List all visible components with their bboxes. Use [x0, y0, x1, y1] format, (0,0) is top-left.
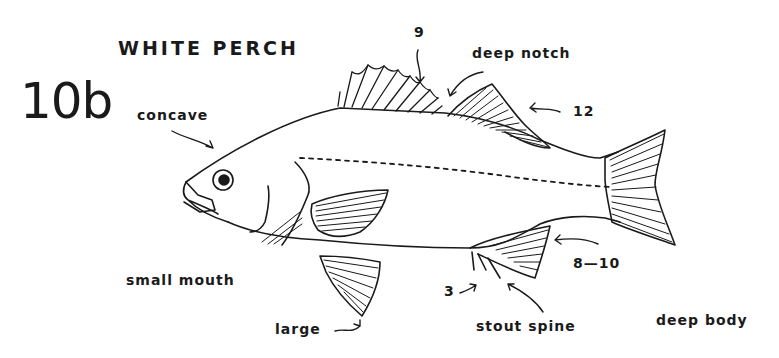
preopercle	[250, 186, 269, 232]
pectoral-fin	[311, 190, 388, 236]
lateral-line	[300, 158, 612, 187]
white-perch-illustration	[0, 0, 779, 358]
arrow-deep-notch	[448, 72, 483, 96]
anal-fin	[470, 226, 550, 278]
opercle	[282, 162, 309, 245]
fish-head	[184, 162, 309, 245]
arrow-dorsal-spines	[416, 50, 424, 82]
caudal-fin	[605, 130, 675, 245]
arrow-anal-rays	[555, 235, 598, 244]
fish-body	[184, 108, 675, 248]
pelvic-fin	[320, 256, 380, 316]
arrow-anal-spines	[460, 284, 476, 293]
mouth	[184, 182, 215, 212]
arrow-concave	[172, 131, 213, 148]
arrow-stout-spine	[508, 284, 543, 312]
spiny-dorsal-fin	[338, 65, 442, 114]
arrow-pelvic	[335, 320, 360, 331]
arrow-soft-dorsal	[530, 103, 560, 112]
